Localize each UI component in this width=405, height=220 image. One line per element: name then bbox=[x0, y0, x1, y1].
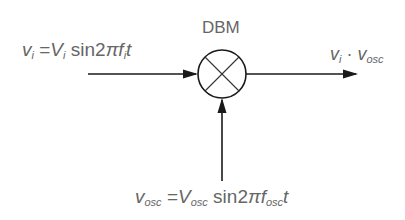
oscillator-arrow bbox=[218, 98, 227, 181]
input-amp: V bbox=[50, 39, 63, 60]
osc-var: v bbox=[135, 186, 145, 207]
output-a: v bbox=[330, 44, 339, 64]
output-a-sub: i bbox=[339, 53, 341, 65]
pi-symbol: π bbox=[106, 39, 119, 60]
pi-symbol: π bbox=[248, 186, 261, 207]
sin-func: sin2 bbox=[213, 186, 248, 207]
osc-amp: V bbox=[178, 186, 191, 207]
osc-amp-sub: osc bbox=[191, 196, 208, 208]
input-amp-sub: i bbox=[63, 49, 65, 61]
time-var: t bbox=[283, 186, 288, 207]
equals-sign: = bbox=[167, 186, 178, 207]
oscillator-equation: vosc =Vosc sin2πfosct bbox=[135, 186, 288, 208]
osc-var-sub: osc bbox=[145, 196, 162, 208]
equals-sign: = bbox=[39, 39, 50, 60]
output-b-sub: osc bbox=[366, 53, 383, 65]
input-var: v bbox=[22, 39, 32, 60]
input-var-sub: i bbox=[32, 49, 34, 61]
input-equation: vi =Vi sin2πfit bbox=[22, 39, 131, 61]
output-expression: vi · vosc bbox=[330, 44, 384, 65]
product-dot: · bbox=[346, 44, 352, 64]
sin-func: sin2 bbox=[71, 39, 106, 60]
input-arrow bbox=[88, 70, 198, 79]
osc-freq-sub: osc bbox=[266, 196, 283, 208]
block-label: DBM bbox=[202, 18, 240, 38]
multiplier-icon bbox=[198, 50, 246, 98]
input-freq-sub: i bbox=[124, 49, 126, 61]
time-var: t bbox=[126, 39, 131, 60]
output-arrow bbox=[246, 70, 358, 79]
input-freq: f bbox=[118, 39, 123, 60]
